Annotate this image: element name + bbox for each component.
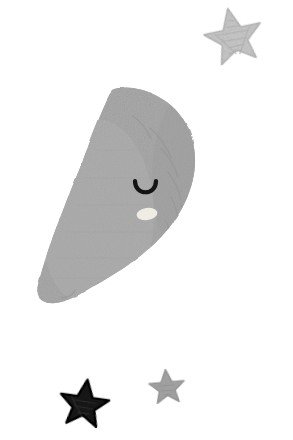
illustration-canvas: Sleeping Crescent Moon with Stars bbox=[0, 0, 293, 440]
star-gray-small bbox=[148, 368, 186, 404]
moon-and-stars-artboard bbox=[0, 0, 293, 440]
star-light-large bbox=[200, 3, 267, 67]
crescent-moon bbox=[30, 80, 240, 315]
moon-outer-shade bbox=[152, 86, 240, 270]
star-dark bbox=[57, 376, 111, 428]
moon-texture-group bbox=[30, 80, 240, 315]
